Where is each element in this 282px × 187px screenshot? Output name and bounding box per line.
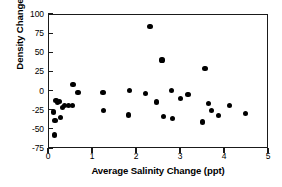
data-point bbox=[126, 112, 131, 117]
y-tick-mark bbox=[48, 147, 53, 148]
plot-area bbox=[48, 14, 268, 148]
y-tick-label: -25 bbox=[10, 105, 44, 114]
x-tick-label: 0 bbox=[38, 152, 58, 161]
y-tick-mark bbox=[48, 13, 53, 14]
data-point bbox=[70, 82, 75, 87]
x-axis-label: Average Salinity Change (ppt) bbox=[48, 165, 268, 176]
data-point bbox=[51, 109, 56, 114]
data-point bbox=[227, 103, 232, 108]
data-point bbox=[147, 24, 152, 29]
x-tick-label: 2 bbox=[126, 152, 146, 161]
data-point bbox=[100, 90, 105, 95]
scatter-plot-figure: 1007550250-25-50-75012345 Average Salini… bbox=[0, 0, 282, 187]
data-point bbox=[206, 101, 211, 106]
y-tick-mark bbox=[48, 128, 53, 129]
data-point bbox=[178, 96, 183, 101]
data-point bbox=[52, 132, 57, 137]
x-tick-label: 4 bbox=[214, 152, 234, 161]
data-point bbox=[58, 115, 63, 120]
data-point bbox=[185, 92, 190, 97]
data-point bbox=[154, 99, 159, 104]
x-tick-label: 3 bbox=[170, 152, 190, 161]
x-tick-label: 5 bbox=[258, 152, 278, 161]
data-point bbox=[52, 118, 57, 123]
y-tick-mark bbox=[48, 90, 53, 91]
data-point bbox=[75, 90, 80, 95]
y-tick-label: -75 bbox=[10, 144, 44, 153]
y-tick-mark bbox=[48, 71, 53, 72]
y-axis-label: Density Change (%) bbox=[14, 0, 25, 93]
data-point bbox=[202, 66, 207, 71]
x-tick-label: 1 bbox=[82, 152, 102, 161]
y-tick-mark bbox=[48, 33, 53, 34]
data-point bbox=[159, 57, 164, 62]
data-point bbox=[170, 116, 175, 121]
y-tick-label: -50 bbox=[10, 125, 44, 134]
y-tick-mark bbox=[48, 52, 53, 53]
